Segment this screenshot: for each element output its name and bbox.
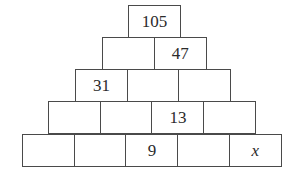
pyramid-cell: 13 xyxy=(151,101,204,134)
pyramid-row-2: 47 xyxy=(102,37,205,69)
pyramid-cell: 47 xyxy=(154,37,207,70)
pyramid-row-3: 31 xyxy=(75,69,230,101)
pyramid-row-5: 9 x xyxy=(22,134,281,166)
number-pyramid: 105 47 31 13 9 x xyxy=(0,0,305,175)
pyramid-cell xyxy=(127,69,180,102)
pyramid-row-4: 13 xyxy=(48,101,255,133)
pyramid-cell xyxy=(178,69,231,102)
pyramid-cell xyxy=(203,101,256,134)
pyramid-cell xyxy=(48,101,101,134)
pyramid-cell xyxy=(22,134,75,167)
pyramid-cell: 105 xyxy=(128,5,181,38)
pyramid-cell: 31 xyxy=(75,69,128,102)
pyramid-row-1: 105 xyxy=(128,5,180,37)
pyramid-cell-variable-x: x xyxy=(229,134,282,167)
pyramid-cell xyxy=(74,134,127,167)
pyramid-cell xyxy=(100,101,153,134)
pyramid-cell xyxy=(102,37,155,70)
pyramid-cell xyxy=(177,134,230,167)
pyramid-cell: 9 xyxy=(125,134,178,167)
